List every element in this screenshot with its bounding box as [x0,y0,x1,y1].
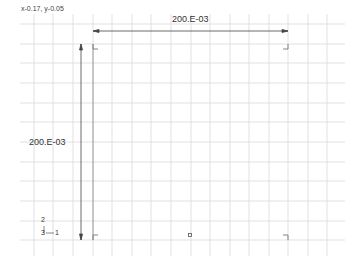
axis-label-x: 1 [55,229,59,236]
corner-marker-top-left [93,44,98,49]
corner-marker-bottom-right [283,235,288,240]
arrowhead-down-icon [80,234,83,240]
axis-label-z: 3 [41,229,45,236]
axis-triad-icon [44,226,54,233]
arrowhead-right-icon [282,30,288,33]
grid [20,14,345,256]
arrowhead-up-icon [80,44,83,50]
corner-marker-top-right [283,44,288,49]
horizontal-dimension[interactable] [93,30,288,33]
drawing-canvas[interactable] [0,0,359,268]
cursor-coordinates: x-0.17, y-0.05 [21,5,64,12]
arrowhead-left-icon [93,30,99,33]
axis-label-y: 2 [41,216,45,223]
vertical-dimension-label[interactable]: 200.E-03 [29,137,66,147]
corner-marker-bottom-left [93,235,98,240]
horizontal-dimension-label[interactable]: 200.E-03 [172,14,209,24]
